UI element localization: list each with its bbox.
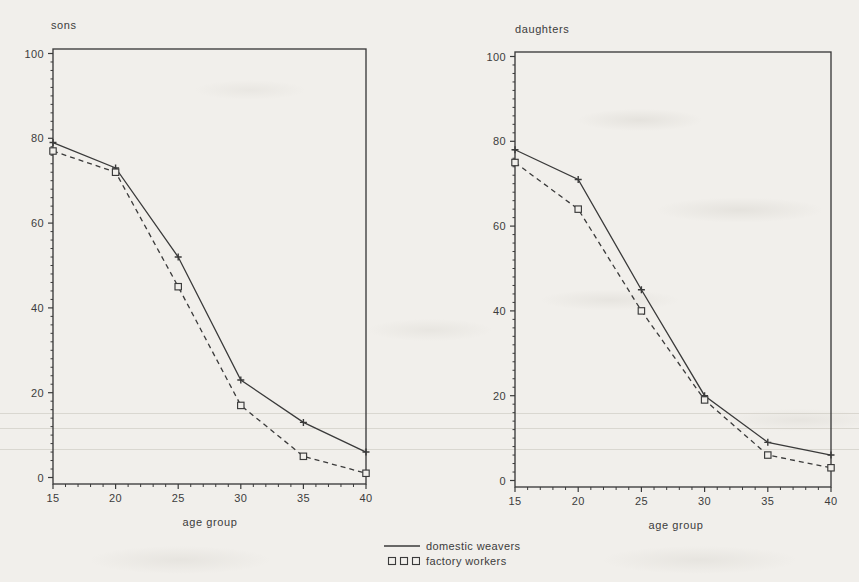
line-charts-canvas: 0204060801001520253035400204060801001520…	[0, 0, 859, 582]
y-tick-label: 20	[493, 390, 506, 402]
legend-item-factory-workers: factory workers	[384, 553, 520, 568]
legend-label: domestic weavers	[426, 540, 520, 552]
y-tick-label: 40	[31, 302, 44, 314]
square-marker-factory-workers	[701, 397, 707, 403]
plus-marker-domestic-weavers	[828, 452, 835, 459]
sons-x-axis-label: age group	[150, 516, 270, 528]
y-tick-label: 80	[31, 132, 44, 144]
y-tick-label: 60	[493, 220, 506, 232]
plus-marker-domestic-weavers	[638, 286, 645, 293]
square-marker-factory-workers	[175, 284, 181, 290]
square-marker-factory-workers	[828, 465, 834, 471]
x-tick-label: 20	[109, 492, 122, 504]
y-tick-label: 100	[486, 51, 506, 63]
plus-marker-domestic-weavers	[300, 419, 307, 426]
legend: domestic weavers factory workers	[384, 538, 520, 568]
y-tick-label: 0	[37, 472, 44, 484]
square-marker-factory-workers	[50, 148, 56, 154]
square-marker-factory-workers	[112, 169, 118, 175]
square-marker-factory-workers	[575, 206, 581, 212]
x-tick-label: 40	[824, 495, 837, 507]
square-marker-factory-workers	[638, 308, 644, 314]
plot-border	[515, 52, 831, 487]
x-tick-label: 20	[572, 495, 585, 507]
plus-marker-domestic-weavers	[50, 139, 57, 146]
x-tick-label: 15	[508, 495, 521, 507]
x-tick-label: 25	[172, 492, 185, 504]
sons-chart: 020406080100152025303540	[24, 48, 372, 505]
plus-marker-domestic-weavers	[237, 376, 244, 383]
legend-label: factory workers	[426, 555, 507, 567]
x-tick-label: 25	[635, 495, 648, 507]
daughters-x-axis-label: age group	[616, 519, 736, 531]
series-line-factory-workers	[515, 163, 831, 468]
x-tick-label: 30	[698, 495, 711, 507]
x-tick-label: 30	[234, 492, 247, 504]
y-tick-label: 20	[31, 387, 44, 399]
y-tick-label: 0	[499, 475, 506, 487]
series-line-factory-workers	[53, 151, 366, 473]
series-line-domestic-weavers	[53, 143, 366, 453]
plus-marker-domestic-weavers	[512, 146, 519, 153]
open-squares-swatch	[384, 556, 420, 566]
plus-marker-domestic-weavers	[575, 176, 582, 183]
x-tick-label: 40	[359, 492, 372, 504]
x-tick-label: 15	[46, 492, 59, 504]
plus-marker-domestic-weavers	[363, 449, 370, 456]
y-tick-label: 40	[493, 305, 506, 317]
square-marker-factory-workers	[300, 453, 306, 459]
square-marker-factory-workers	[238, 402, 244, 408]
plot-border	[53, 49, 366, 484]
y-tick-label: 60	[31, 217, 44, 229]
y-tick-label: 80	[493, 135, 506, 147]
daughters-chart: 020406080100152025303540	[486, 51, 837, 508]
square-marker-factory-workers	[765, 452, 771, 458]
square-marker-factory-workers	[363, 470, 369, 476]
solid-line-swatch	[384, 541, 420, 551]
series-line-domestic-weavers	[515, 150, 831, 455]
square-marker-factory-workers	[512, 159, 518, 165]
legend-item-domestic-weavers: domestic weavers	[384, 538, 520, 553]
y-tick-label: 100	[24, 48, 44, 60]
x-tick-label: 35	[297, 492, 310, 504]
x-tick-label: 35	[761, 495, 774, 507]
scanned-book-page: sons daughters 0204060801001520253035400…	[0, 0, 859, 582]
